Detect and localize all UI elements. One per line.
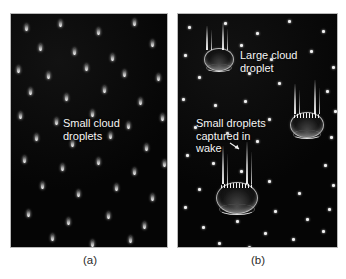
small-cloud-droplet — [77, 190, 80, 197]
large-droplet-1-rim — [206, 64, 231, 72]
small-cloud-droplet — [161, 114, 164, 121]
small-cloud-droplet — [139, 98, 142, 105]
small-cloud-droplet — [198, 76, 201, 79]
small-cloud-droplet — [27, 210, 30, 217]
small-cloud-droplet — [326, 90, 329, 93]
panel-a-annotation-line2: droplets — [63, 130, 102, 142]
small-cloud-droplet — [288, 20, 291, 23]
small-cloud-droplet — [145, 144, 148, 151]
small-cloud-droplet — [115, 184, 118, 191]
wake-pointer-arrow — [230, 142, 242, 152]
small-cloud-droplet — [248, 246, 251, 248]
wake-streak — [251, 152, 252, 184]
small-cloud-droplet — [268, 118, 271, 121]
small-cloud-droplet — [133, 168, 136, 175]
wake-streak — [319, 88, 320, 114]
small-cloud-droplet — [268, 180, 271, 183]
small-cloud-droplet — [186, 154, 189, 157]
small-cloud-droplet — [292, 238, 295, 241]
small-cloud-droplet — [23, 156, 26, 163]
wake-streak — [314, 80, 316, 114]
small-cloud-droplet — [97, 28, 100, 35]
small-cloud-droplet — [107, 212, 110, 219]
small-cloud-droplet — [298, 192, 301, 195]
panel-b-annotation-bottom-line3: wake — [196, 142, 222, 154]
small-cloud-droplet — [240, 44, 243, 47]
small-cloud-droplet — [322, 230, 325, 233]
small-cloud-droplet — [133, 19, 136, 26]
wake-streak — [227, 154, 228, 184]
small-cloud-droplet — [274, 210, 277, 213]
small-cloud-droplet — [202, 226, 205, 229]
small-cloud-droplet — [91, 240, 94, 247]
captured-droplets-3 — [221, 183, 253, 188]
panel-a: Small clouddroplets — [10, 13, 168, 248]
small-cloud-droplet — [310, 50, 313, 53]
panel-a-label: (a) — [60, 254, 120, 266]
wake-streak — [227, 29, 228, 50]
small-cloud-droplet — [61, 164, 64, 171]
small-cloud-droplet — [67, 218, 70, 225]
small-cloud-droplet — [256, 32, 259, 35]
captured-droplets-2 — [294, 113, 320, 118]
small-cloud-droplet — [324, 164, 327, 167]
small-cloud-droplet — [25, 24, 28, 31]
panel-a-annotation: Small clouddroplets — [63, 117, 120, 142]
panel-b-annotation-top-line2: droplet — [240, 62, 274, 74]
small-cloud-droplet — [59, 20, 62, 27]
panel-b: Large clouddroplet Small dropletscapture… — [177, 13, 338, 248]
cloud-droplet-figure: Small clouddroplets — [0, 0, 346, 279]
small-cloud-droplet — [143, 222, 146, 229]
small-cloud-droplet — [264, 232, 267, 235]
small-cloud-droplet — [127, 122, 130, 129]
small-cloud-droplet — [334, 110, 337, 113]
small-cloud-droplet — [322, 30, 325, 33]
small-cloud-droplet — [103, 86, 106, 93]
small-cloud-droplet — [306, 218, 309, 221]
wake-streak — [222, 23, 224, 50]
small-cloud-droplet — [17, 66, 20, 73]
small-cloud-droplet — [198, 188, 201, 191]
small-cloud-droplet — [97, 158, 100, 165]
panel-b-label: (b) — [228, 254, 288, 266]
small-cloud-droplet — [332, 184, 335, 187]
wake-streak — [211, 30, 212, 50]
large-droplet-3-rim — [219, 204, 254, 215]
small-cloud-droplet — [111, 54, 114, 61]
small-cloud-droplet — [41, 182, 44, 189]
small-cloud-droplet — [218, 242, 221, 245]
small-cloud-droplet — [244, 100, 247, 103]
panel-a-annotation-line1: Small cloud — [63, 117, 120, 129]
wake-streak — [206, 26, 208, 50]
wake-streak — [299, 90, 300, 114]
small-cloud-droplet — [65, 94, 68, 101]
small-cloud-droplet — [163, 160, 166, 167]
small-cloud-droplet — [51, 234, 54, 241]
small-cloud-droplet — [157, 74, 160, 81]
small-cloud-droplet — [35, 134, 38, 141]
small-cloud-droplet — [55, 118, 58, 125]
large-cloud-droplet-1 — [204, 48, 234, 71]
panel-b-annotation-top-line1: Large cloud — [240, 49, 298, 61]
small-cloud-droplet — [73, 48, 76, 55]
small-cloud-droplet — [278, 82, 281, 85]
small-cloud-droplet — [39, 44, 42, 51]
small-cloud-droplet — [19, 112, 22, 119]
panel-b-annotation-large-droplet: Large clouddroplet — [240, 49, 298, 74]
panel-b-annotation-bottom-line2: captured in — [196, 130, 250, 142]
small-cloud-droplet — [47, 72, 50, 79]
panel-b-annotation-bottom-line1: Small droplets — [196, 117, 266, 129]
small-cloud-droplet — [188, 26, 191, 29]
small-cloud-droplet — [214, 104, 217, 107]
small-cloud-droplet — [212, 162, 215, 165]
small-cloud-droplet — [151, 194, 154, 201]
large-droplet-2-rim — [293, 130, 322, 139]
small-cloud-droplet — [236, 220, 239, 223]
small-cloud-droplet — [123, 70, 126, 77]
small-cloud-droplet — [184, 206, 187, 209]
small-cloud-droplet — [182, 98, 185, 101]
small-cloud-droplet — [129, 236, 132, 243]
small-cloud-droplet — [332, 66, 335, 69]
large-cloud-droplet-3 — [216, 182, 258, 214]
large-cloud-droplet-2 — [290, 112, 324, 138]
